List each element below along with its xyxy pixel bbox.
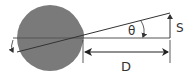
distance-label: D bbox=[121, 59, 131, 74]
visual-angle-diagram: θ S D bbox=[0, 0, 194, 75]
theta-label: θ bbox=[128, 24, 135, 38]
size-label: S bbox=[176, 21, 184, 35]
angle-arc-icon bbox=[141, 21, 144, 37]
rotation-arrow-icon bbox=[12, 40, 14, 52]
